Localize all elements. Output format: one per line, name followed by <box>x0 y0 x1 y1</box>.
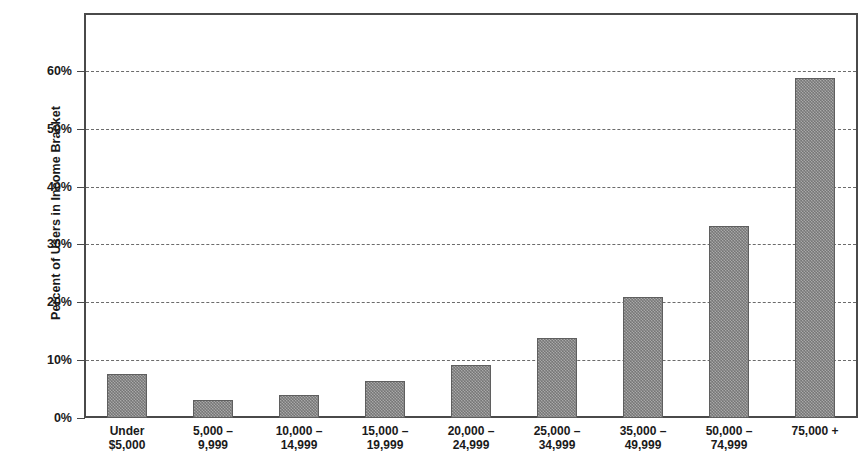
bar <box>279 395 319 418</box>
x-axis-tick-label: 35,000 – 49,999 <box>600 424 686 452</box>
bar <box>709 226 749 418</box>
y-axis-tick-label: 10% <box>10 353 72 367</box>
y-axis-tick-label: 60% <box>10 64 72 78</box>
bar <box>451 365 491 418</box>
y-axis-tick-label: 30% <box>10 237 72 251</box>
x-axis-tick-labels: Under $5,0005,000 – 9,99910,000 – 14,999… <box>84 424 858 468</box>
x-axis-tick-label: Under $5,000 <box>84 424 170 452</box>
y-axis-tick-label: 50% <box>10 122 72 136</box>
x-axis-tick-label: 20,000 – 24,999 <box>428 424 514 452</box>
bar <box>193 400 233 418</box>
y-axis-tick <box>77 418 85 419</box>
bar <box>537 338 577 418</box>
x-axis-tick-label: 5,000 – 9,999 <box>170 424 256 452</box>
y-axis-tick-label: 0% <box>10 411 72 425</box>
bar <box>365 381 405 418</box>
bar <box>107 374 147 418</box>
y-axis-title: Percent of Users in Income Bracket <box>49 73 63 353</box>
bars-container <box>84 13 858 418</box>
y-axis-tick-label: 20% <box>10 295 72 309</box>
x-axis-tick-label: 50,000 – 74,999 <box>686 424 772 452</box>
bar <box>623 297 663 418</box>
x-axis-tick-label: 75,000 + <box>772 424 858 438</box>
x-axis-tick-label: 15,000 – 19,999 <box>342 424 428 452</box>
y-axis-tick-label: 40% <box>10 180 72 194</box>
x-axis-tick-label: 25,000 – 34,999 <box>514 424 600 452</box>
bar <box>795 78 835 418</box>
bar-chart: Percent of Users in Income Bracket 0%10%… <box>0 0 866 472</box>
x-axis-tick-label: 10,000 – 14,999 <box>256 424 342 452</box>
